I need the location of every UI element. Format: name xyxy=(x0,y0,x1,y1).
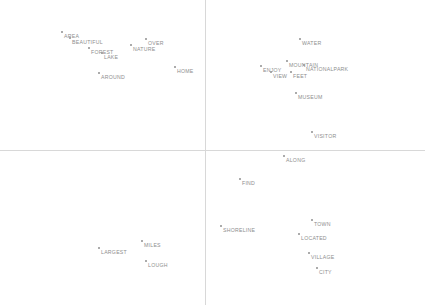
scatter-point-label: OVER xyxy=(148,41,164,46)
scatter-point-marker xyxy=(311,219,313,221)
scatter-point-marker xyxy=(311,131,313,133)
scatter-point-label: MILES xyxy=(144,243,161,248)
scatter-point-label: NATIONALPARK xyxy=(306,67,348,72)
scatter-point-label: CITY xyxy=(319,270,332,275)
scatter-point-label: LAKE xyxy=(104,55,118,60)
scatter-point-marker xyxy=(260,65,262,67)
scatter-point-marker xyxy=(61,31,63,33)
scatter-point-marker xyxy=(88,47,90,49)
scatter-point-label: ALONG xyxy=(286,158,305,163)
scatter-point-label: MUSEUM xyxy=(298,95,323,100)
scatter-point-marker xyxy=(174,66,176,68)
scatter-point-label: LOUGH xyxy=(148,263,168,268)
scatter-point-label: TOWN xyxy=(314,222,331,227)
scatter-plot-canvas: AREABEAUTIFULFORESTLAKENATUREOVERAROUNDH… xyxy=(0,0,425,305)
scatter-point-marker xyxy=(308,252,310,254)
scatter-point-marker xyxy=(303,64,305,66)
scatter-point-label: BEAUTIFUL xyxy=(72,40,103,45)
scatter-point-marker xyxy=(299,38,301,40)
scatter-point-label: FEET xyxy=(293,74,307,79)
scatter-point-label: LARGEST xyxy=(101,250,127,255)
scatter-point-marker xyxy=(239,178,241,180)
scatter-point-marker xyxy=(145,38,147,40)
horizontal-axis-line xyxy=(0,150,425,151)
scatter-point-marker xyxy=(316,267,318,269)
scatter-point-label: LOCATED xyxy=(301,236,327,241)
scatter-point-label: WATER xyxy=(302,41,321,46)
scatter-point-marker xyxy=(270,71,272,73)
scatter-point-marker xyxy=(145,260,147,262)
scatter-point-marker xyxy=(130,44,132,46)
scatter-point-label: HOME xyxy=(177,69,194,74)
scatter-point-marker xyxy=(283,155,285,157)
scatter-point-label: FIND xyxy=(242,181,255,186)
scatter-point-marker xyxy=(295,92,297,94)
scatter-point-label: VIEW xyxy=(273,74,287,79)
scatter-point-label: VISITOR xyxy=(314,134,336,139)
scatter-point-marker xyxy=(98,247,100,249)
scatter-point-marker xyxy=(141,240,143,242)
scatter-point-marker xyxy=(98,72,100,74)
scatter-point-label: VILLAGE xyxy=(311,255,334,260)
scatter-point-marker xyxy=(220,225,222,227)
scatter-point-marker xyxy=(290,71,292,73)
vertical-axis-line xyxy=(205,0,206,305)
scatter-point-label: SHORELINE xyxy=(223,228,255,233)
scatter-point-label: NATURE xyxy=(133,47,155,52)
scatter-point-marker xyxy=(286,60,288,62)
scatter-point-marker xyxy=(298,233,300,235)
scatter-point-marker xyxy=(101,52,103,54)
scatter-point-label: AROUND xyxy=(101,75,125,80)
scatter-point-marker xyxy=(69,37,71,39)
